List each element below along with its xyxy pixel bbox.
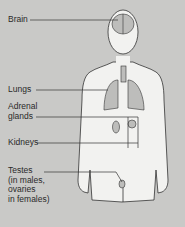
testes-organ <box>119 180 125 188</box>
label-lungs: Lungs <box>8 85 31 95</box>
right-kidney <box>128 120 136 128</box>
label-kidneys: Kidneys <box>8 138 38 148</box>
label-brain: Brain <box>8 15 28 25</box>
trachea <box>121 66 126 82</box>
body-outline <box>78 10 168 202</box>
label-testes: Testes (in males, ovaries in females) <box>8 166 50 204</box>
left-kidney <box>113 121 120 133</box>
label-adrenal-glands: Adrenal glands <box>8 102 37 121</box>
